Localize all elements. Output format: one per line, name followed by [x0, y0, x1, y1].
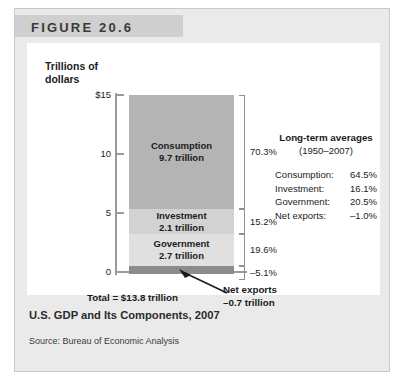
- segment-amount-investment: 2.1 trillion: [129, 222, 234, 234]
- percent-label-net-exports: –5.1%: [250, 267, 277, 278]
- segment-label-government: Government: [129, 238, 234, 250]
- legend-value-consumption: 64.5%: [343, 168, 377, 182]
- legend-years: (1950–2007): [275, 144, 377, 157]
- legend-label-investment: Investment:: [275, 182, 324, 196]
- y-axis-line: [115, 93, 117, 275]
- segment-amount-consumption: 9.7 trillion: [129, 152, 234, 164]
- figure-frame: FIGURE 20.6 Trillions of dollars $15 10 …: [14, 8, 390, 372]
- figure-number-label: FIGURE 20.6: [31, 20, 133, 35]
- segment-amount-government: 2.7 trillion: [129, 250, 234, 262]
- legend-label-net-exports: Net exports:: [275, 209, 326, 223]
- legend-row-investment: Investment: 16.1%: [275, 182, 377, 196]
- bracket-net-exports: [239, 266, 245, 280]
- total-annotation: Total = $13.8 trillion: [87, 292, 178, 303]
- y-axis-title: Trillions of dollars: [45, 60, 98, 86]
- legend-label-consumption: Consumption:: [275, 168, 334, 182]
- chart-panel: Trillions of dollars $15 10 5 0 Consumpt…: [27, 43, 380, 295]
- percent-label-government: 19.6%: [250, 244, 277, 255]
- legend-row-net-exports: Net exports: –1.0%: [275, 209, 377, 223]
- net-exports-callout-line1: Net exports: [223, 284, 277, 297]
- segment-label-investment: Investment: [129, 210, 234, 222]
- bar-segment-consumption[interactable]: Consumption 9.7 trillion: [129, 95, 234, 209]
- figure-caption: U.S. GDP and Its Components, 2007: [29, 309, 220, 321]
- net-exports-callout: Net exports –0.7 trillion: [223, 284, 277, 309]
- bar-segment-investment[interactable]: Investment 2.1 trillion: [129, 209, 234, 234]
- y-tick-label-15: $15: [77, 89, 111, 100]
- y-tick-label-5: 5: [77, 207, 111, 218]
- bracket-consumption: [239, 95, 245, 209]
- stacked-bar: Consumption 9.7 trillion Investment 2.1 …: [129, 95, 234, 274]
- bracket-investment: [239, 209, 245, 234]
- net-exports-arrow-icon: [177, 269, 229, 295]
- legend-row-consumption: Consumption: 64.5%: [275, 168, 377, 182]
- y-tick-mark-15: [116, 94, 124, 96]
- legend-value-net-exports: –1.0%: [343, 209, 377, 223]
- legend-rows: Consumption: 64.5% Investment: 16.1% Gov…: [275, 168, 377, 222]
- percent-label-investment: 15.2%: [250, 216, 277, 227]
- bracket-government: [239, 234, 245, 266]
- legend-value-government: 20.5%: [343, 195, 377, 209]
- y-tick-mark-5: [116, 212, 124, 214]
- segment-label-consumption: Consumption: [129, 140, 234, 152]
- y-axis-title-line2: dollars: [45, 73, 98, 86]
- legend-row-government: Government: 20.5%: [275, 195, 377, 209]
- legend-value-investment: 16.1%: [343, 182, 377, 196]
- long-term-averages-legend: Long-term averages (1950–2007) Consumpti…: [275, 131, 377, 222]
- legend-title: Long-term averages: [275, 131, 377, 144]
- legend-label-government: Government:: [275, 195, 330, 209]
- y-tick-label-0: 0: [77, 266, 111, 277]
- net-exports-callout-line2: –0.7 trillion: [223, 297, 277, 310]
- percent-label-consumption: 70.3%: [250, 146, 277, 157]
- figure-source: Source: Bureau of Economic Analysis: [29, 336, 179, 346]
- y-tick-label-10: 10: [77, 148, 111, 159]
- y-tick-mark-10: [116, 153, 124, 155]
- y-axis-title-line1: Trillions of: [45, 60, 98, 73]
- bar-segment-government[interactable]: Government 2.7 trillion: [129, 234, 234, 266]
